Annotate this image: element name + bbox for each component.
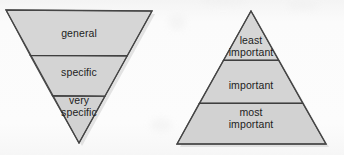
- diagram-screenshot: general specific very specific least imp…: [0, 0, 344, 155]
- label-important: important: [229, 80, 274, 92]
- label-most-important: important: [229, 119, 274, 131]
- label-least-important: important: [229, 47, 274, 59]
- label-very: very: [69, 95, 89, 107]
- label-very-specific: specific: [61, 107, 97, 119]
- diagram-labels: general specific very specific least imp…: [0, 0, 344, 155]
- label-least: least: [240, 35, 263, 47]
- label-specific: specific: [61, 67, 97, 79]
- label-general: general: [61, 28, 97, 40]
- label-most: most: [239, 107, 262, 119]
